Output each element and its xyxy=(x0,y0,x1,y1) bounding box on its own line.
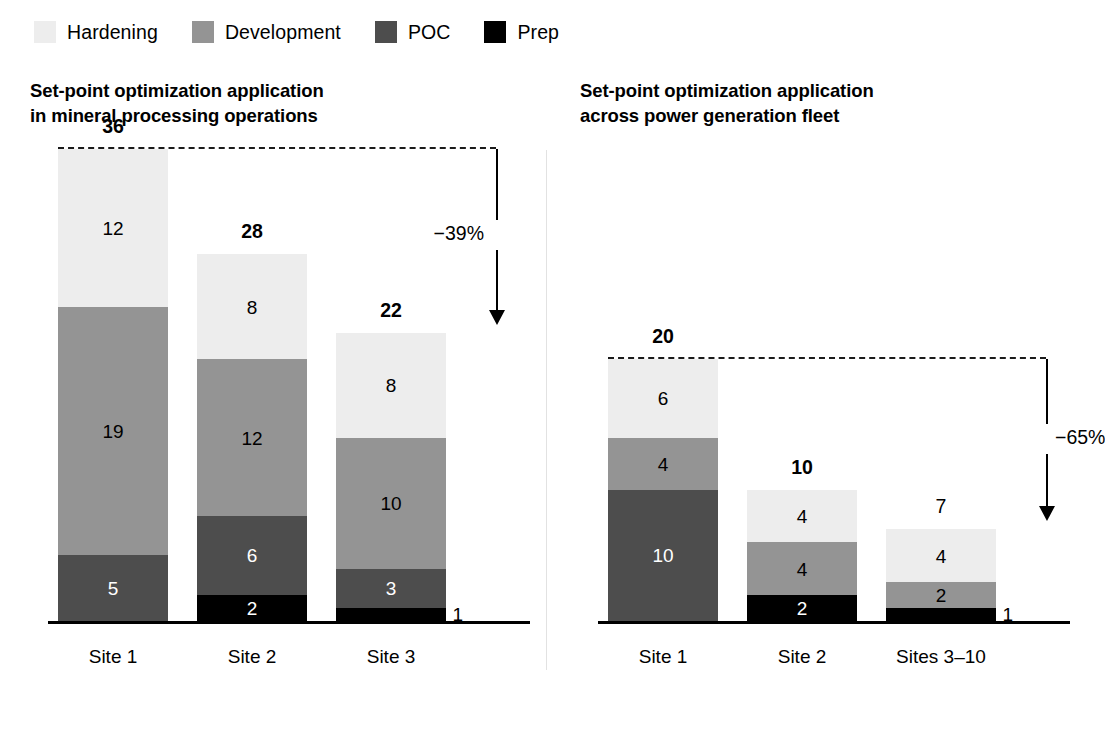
bar-segment-value: 10 xyxy=(336,494,446,513)
bar-segment-development[interactable]: 12 xyxy=(197,359,307,516)
bar-segment-value: 4 xyxy=(747,559,857,578)
bar-segment-poc[interactable]: 10 xyxy=(608,490,718,621)
bar-total-label: 10 xyxy=(747,457,857,477)
delta-value-label: −39% xyxy=(434,223,484,243)
legend-swatch-hardening-icon xyxy=(34,21,56,43)
stacked-bar[interactable]: 1219536Site 1 xyxy=(58,149,168,621)
bar-segment-hardening[interactable]: 4 xyxy=(886,529,996,581)
stacked-bar[interactable]: 641020Site 1 xyxy=(608,359,718,621)
stacked-bar[interactable]: 44210Site 2 xyxy=(747,490,857,621)
legend-item-poc: POC xyxy=(375,21,451,43)
legend-label-hardening: Hardening xyxy=(67,21,158,43)
legend-label-development: Development xyxy=(225,21,341,43)
category-label: Site 3 xyxy=(306,647,476,667)
bar-segment-prep[interactable]: 1 xyxy=(336,608,446,621)
plot-area-right: 641020Site 144210Site 24217Sites 3–10−65… xyxy=(580,126,1070,686)
bar-segment-value: 1 xyxy=(1002,605,1013,624)
bar-segment-value: 19 xyxy=(58,422,168,441)
bar-segment-value: 4 xyxy=(608,454,718,473)
bar-segment-hardening[interactable]: 4 xyxy=(747,490,857,542)
bar-total-label: 22 xyxy=(336,300,446,320)
panel-divider xyxy=(546,150,547,670)
bar-segment-development[interactable]: 19 xyxy=(58,307,168,556)
bar-segment-value: 10 xyxy=(608,546,718,565)
bar-segment-hardening[interactable]: 6 xyxy=(608,359,718,438)
bar-segment-poc[interactable]: 6 xyxy=(197,516,307,595)
bar-segment-prep[interactable]: 2 xyxy=(197,595,307,621)
category-label: Sites 3–10 xyxy=(856,647,1026,667)
bar-segment-value: 12 xyxy=(58,219,168,238)
bar-segment-value: 12 xyxy=(197,428,307,447)
bar-segment-value: 2 xyxy=(886,585,996,604)
delta-arrow-stem-upper xyxy=(496,149,498,219)
bar-segment-poc[interactable]: 3 xyxy=(336,569,446,608)
chart-legend: Hardening Development POC Prep xyxy=(34,18,593,46)
reference-line xyxy=(608,357,1046,359)
bar-total-label: 7 xyxy=(886,496,996,516)
legend-item-prep: Prep xyxy=(484,21,559,43)
bar-total-label: 28 xyxy=(197,221,307,241)
bar-segment-hardening[interactable]: 8 xyxy=(197,254,307,359)
bar-group[interactable]: 4217Sites 3–10 xyxy=(886,529,996,621)
legend-label-poc: POC xyxy=(408,21,451,43)
legend-item-development: Development xyxy=(192,21,341,43)
chart-panel-mineral-processing: Set-point optimization application in mi… xyxy=(30,78,530,718)
bar-segment-value: 4 xyxy=(886,546,996,565)
bar-segment-value: 6 xyxy=(197,546,307,565)
delta-arrow-head-icon xyxy=(1039,506,1055,521)
legend-item-hardening: Hardening xyxy=(34,21,158,43)
bar-total-label: 20 xyxy=(608,326,718,346)
chart-panel-power-generation: Set-point optimization application acros… xyxy=(580,78,1070,718)
legend-swatch-poc-icon xyxy=(375,21,397,43)
bar-segment-hardening[interactable]: 12 xyxy=(58,149,168,306)
bar-segment-value: 8 xyxy=(336,376,446,395)
delta-value-label: −65% xyxy=(1055,427,1105,447)
bar-group[interactable]: 641020Site 1 xyxy=(608,359,718,621)
delta-arrow-stem-upper xyxy=(1046,359,1048,424)
bar-segment-poc[interactable]: 5 xyxy=(58,555,168,621)
panel-title-right: Set-point optimization application acros… xyxy=(580,78,1070,128)
bar-group[interactable]: 1219536Site 1 xyxy=(58,149,168,621)
bar-total-label: 36 xyxy=(58,116,168,136)
delta-arrow-head-icon xyxy=(489,310,505,325)
stacked-bar[interactable]: 8126228Site 2 xyxy=(197,254,307,621)
reference-line xyxy=(58,147,496,149)
bar-segment-development[interactable]: 10 xyxy=(336,438,446,569)
plot-area-left: 1219536Site 18126228Site 28103122Site 3−… xyxy=(30,126,530,686)
bar-segment-prep[interactable]: 1 xyxy=(886,608,996,621)
legend-label-prep: Prep xyxy=(517,21,559,43)
stacked-bar[interactable]: 4217Sites 3–10 xyxy=(886,529,996,621)
bar-group[interactable]: 8103122Site 3 xyxy=(336,333,446,621)
bar-segment-value: 5 xyxy=(58,579,168,598)
bar-segment-value: 2 xyxy=(197,598,307,617)
bar-segment-development[interactable]: 4 xyxy=(747,542,857,594)
x-axis-line-right xyxy=(598,621,1070,624)
bar-segment-value: 2 xyxy=(747,598,857,617)
bar-group[interactable]: 8126228Site 2 xyxy=(197,254,307,621)
bar-segment-development[interactable]: 4 xyxy=(608,438,718,490)
delta-arrow-stem-lower xyxy=(1046,454,1048,507)
bar-segment-value: 1 xyxy=(452,605,463,624)
stacked-bar[interactable]: 8103122Site 3 xyxy=(336,333,446,621)
bar-segment-development[interactable]: 2 xyxy=(886,582,996,608)
bar-segment-value: 3 xyxy=(336,579,446,598)
bar-segment-prep[interactable]: 2 xyxy=(747,595,857,621)
bar-segment-value: 6 xyxy=(608,389,718,408)
bar-group[interactable]: 44210Site 2 xyxy=(747,490,857,621)
legend-swatch-development-icon xyxy=(192,21,214,43)
bar-segment-value: 8 xyxy=(197,297,307,316)
delta-arrow-stem-lower xyxy=(496,250,498,311)
bar-segment-value: 4 xyxy=(747,507,857,526)
legend-swatch-prep-icon xyxy=(484,21,506,43)
bar-segment-hardening[interactable]: 8 xyxy=(336,333,446,438)
